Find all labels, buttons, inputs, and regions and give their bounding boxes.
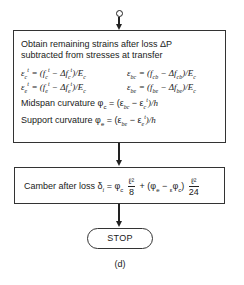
equation-midspan-curvature: Midspan curvature φc = (εbc − εct)/h xyxy=(21,98,158,109)
process-box-camber: Camber after loss δi = φc ℓ²8 + (φe − εφ… xyxy=(14,167,225,204)
arrowhead-icon xyxy=(116,160,122,166)
equation-strain-bottom-support: εbe = (fbe − Δfbe)/Ec xyxy=(127,82,196,93)
intro-line-1: Obtain remaining strains after loss ΔP xyxy=(21,39,172,50)
equation-strain-bottom-midspan: εbc = (fcb − Δfcb)/Ec xyxy=(127,68,196,79)
equation-support-curvature: Support curvature φe = (εbe − εet)/h xyxy=(21,115,156,126)
fraction-l2-over-8: ℓ²8 xyxy=(128,177,135,197)
stop-terminal: STOP xyxy=(87,228,153,249)
process-box-remaining-strains: Obtain remaining strains after loss ΔP s… xyxy=(13,30,226,143)
flow-line xyxy=(118,143,120,161)
equation-camber-after-loss: Camber after loss δi = φc ℓ²8 + (φe − εφ… xyxy=(24,174,201,198)
arrowhead-icon xyxy=(116,221,122,227)
figure-caption: (d) xyxy=(0,259,240,269)
flow-line xyxy=(118,204,120,222)
intro-line-2: subtracted from stresses at transfer xyxy=(21,50,163,61)
off-page-connector xyxy=(116,10,123,17)
equation-strain-top-midspan: εct = (fct − Δfct)/Ec xyxy=(21,68,86,79)
fraction-l2-over-24: ℓ²24 xyxy=(189,177,199,197)
equation-strain-top-support: εet = (fet − Δfet)/Ec xyxy=(21,82,86,93)
